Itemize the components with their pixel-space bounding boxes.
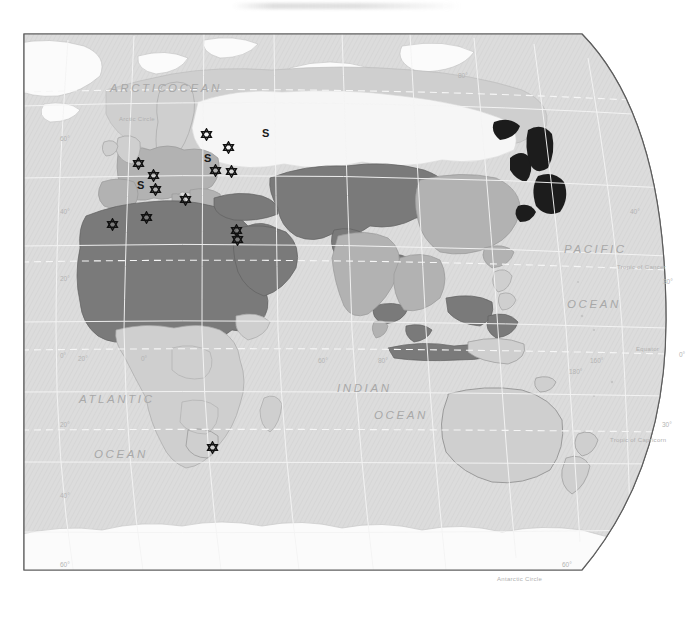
star-of-david-icon (179, 192, 192, 205)
star-of-david-icon (231, 232, 244, 245)
star-of-david-icon (106, 217, 119, 230)
japan-main (533, 174, 566, 214)
star-of-david-icon (140, 210, 153, 223)
graticule-label: 0° (679, 351, 685, 358)
star-of-david-icon (149, 182, 162, 195)
star-of-david-icon (222, 140, 235, 153)
top-artifact-smudge (232, 3, 460, 9)
map-canvas: ARCTICOCEANPACIFICOCEANATLANTICOCEANINDI… (0, 0, 690, 640)
star-of-david-icon (206, 440, 219, 453)
map-frame: ARCTICOCEANPACIFICOCEANATLANTICOCEANINDI… (22, 30, 668, 600)
star-of-david-icon (200, 127, 213, 140)
star-of-david-icon (147, 168, 160, 181)
map-body (22, 30, 668, 600)
world-map-graphic (22, 30, 668, 600)
star-of-david-icon (225, 164, 238, 177)
star-of-david-icon (132, 156, 145, 169)
star-of-david-icon (209, 163, 222, 176)
